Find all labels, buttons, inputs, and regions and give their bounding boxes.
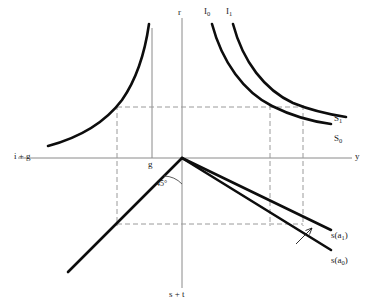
curve-label-s1-sub: 1: [339, 117, 342, 124]
curve-label-s0: S0: [334, 134, 342, 143]
axis-label-r: r: [178, 8, 181, 17]
curve-i1-s1: [233, 24, 346, 117]
curve-label-s-a0-close: ): [345, 255, 348, 265]
curve-label-i0-sub: 0: [207, 10, 210, 17]
curve-label-s0-sub: 0: [339, 137, 342, 144]
curve-label-i1: I1: [226, 7, 232, 16]
curve-label-s1: S1: [334, 114, 342, 123]
ray-s-a1: [182, 158, 331, 230]
ray-s-a0: [182, 158, 331, 250]
curve-label-i0: I0: [204, 7, 210, 16]
curve-label-s-a1-text: s(a: [331, 230, 342, 240]
curve-label-s-a1-sub: 1: [342, 234, 345, 241]
curve-label-s-a1: s(a1): [331, 231, 348, 240]
curve-i-plus-g: [48, 24, 149, 146]
label-g: g: [148, 160, 153, 169]
curve-label-s-a1-close: ): [345, 230, 348, 240]
curve-label-s-a0-sub: 0: [342, 259, 345, 266]
curve-label-s-a0: s(a0): [331, 256, 348, 265]
curve-label-i1-sub: 1: [229, 10, 232, 17]
diagram-canvas: [0, 0, 369, 306]
ray-45-degree: [68, 158, 182, 272]
angle-label-45: 45°: [156, 180, 167, 188]
axis-label-i-plus-g: i + g: [14, 152, 31, 161]
axis-label-y: y: [355, 152, 360, 161]
curve-label-s-a0-text: s(a: [331, 255, 342, 265]
economics-diagram: i + g y r s + t g I0 I1 S1 S0 s(a1) s(a0…: [0, 0, 369, 306]
axis-label-s-plus-t: s + t: [169, 290, 185, 299]
